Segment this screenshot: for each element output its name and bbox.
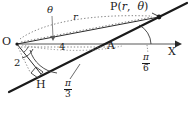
pi-over-six-label: π 6 — [142, 53, 150, 74]
pi-over-six-numerator: π — [142, 53, 150, 62]
point-p-suffix: ) — [144, 0, 148, 13]
theta-arc-label: θ — [47, 5, 53, 15]
segment-oh — [17, 44, 41, 74]
x-axis-arrowhead — [175, 41, 182, 48]
polar-diagram-figure: O X A H 4 2 θ r P(r, θ) π 6 π 3 — [0, 0, 188, 118]
point-p-comma: , — [127, 0, 131, 13]
x-axis-label: X — [168, 46, 176, 57]
point-h-label: H — [36, 79, 46, 90]
geometry-canvas — [0, 0, 188, 118]
pi-over-three-denominator: 3 — [64, 90, 72, 99]
point-a-label: A — [107, 40, 115, 51]
length-oa-label: 4 — [59, 42, 65, 52]
point-p-prefix: P( — [110, 0, 122, 13]
pi-over-three-leader — [70, 64, 80, 79]
angle-arc-at-o-inner — [24, 47, 28, 52]
theta-leader-arrowhead — [50, 36, 55, 41]
theta-arc-dotted — [20, 16, 150, 39]
point-p-leader — [152, 13, 158, 16]
length-oh-label: 2 — [14, 58, 20, 68]
origin-dot — [15, 42, 18, 45]
pi-over-six-denominator: 6 — [142, 64, 150, 73]
pi-over-three-label: π 3 — [64, 79, 72, 100]
pi-over-three-numerator: π — [64, 79, 72, 88]
point-p-label: P(r, θ) — [110, 1, 148, 12]
radius-label: r — [73, 12, 78, 22]
origin-label: O — [2, 36, 11, 47]
segment-op — [17, 17, 159, 44]
angle-arc-pi-over-six — [139, 25, 151, 44]
theta-leader-line — [52, 16, 53, 38]
